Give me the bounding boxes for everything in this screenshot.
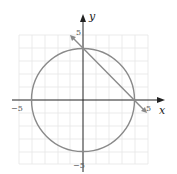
y-pos-tick: 5	[76, 28, 81, 37]
x-axis-label: x	[159, 104, 166, 117]
x-pos-tick: 5	[146, 104, 151, 113]
x-neg-tick: −5	[11, 104, 23, 113]
graph: y x −5 5 5 −5	[0, 0, 177, 174]
y-neg-tick: −5	[73, 161, 85, 170]
y-axis-label: y	[88, 10, 96, 23]
axes	[12, 14, 165, 172]
